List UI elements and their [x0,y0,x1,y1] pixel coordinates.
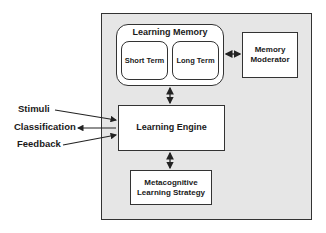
connector-arrows [0,0,326,233]
stimuli-arrow [55,110,116,120]
feedback-arrow [63,135,116,145]
